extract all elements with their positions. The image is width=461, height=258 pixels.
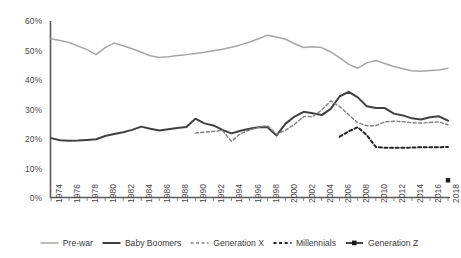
y-tick-label: 40% — [2, 75, 42, 85]
legend-item-generation-x[interactable]: Generation X — [190, 238, 264, 248]
series-line-baby-boomers — [51, 92, 448, 141]
x-tick-label: 1990 — [199, 184, 208, 203]
x-tick-label: 2002 — [308, 184, 317, 203]
series-line-pre-war — [51, 35, 448, 71]
x-tick-label: 2012 — [398, 184, 407, 203]
x-tick-label: 1976 — [73, 184, 82, 203]
legend-item-generation-z[interactable]: Generation Z — [345, 238, 418, 248]
legend-label-generation-x: Generation X — [213, 238, 264, 248]
x-tick-label: 2010 — [380, 184, 389, 203]
x-tick-label: 2000 — [290, 184, 299, 203]
x-tick-label: 1984 — [145, 184, 154, 203]
legend-item-millennials[interactable]: Millennials — [273, 238, 336, 248]
x-tick-label: 1974 — [55, 184, 64, 203]
x-tick-label: 1992 — [217, 184, 226, 203]
y-tick-label: 60% — [2, 16, 42, 26]
legend-swatch-generation-x — [190, 238, 209, 248]
y-tick-label: 0% — [2, 193, 42, 203]
series-line-millennials — [340, 127, 448, 148]
y-tick-label: 30% — [2, 105, 42, 115]
x-tick-label: 1988 — [181, 184, 190, 203]
y-tick-label: 20% — [2, 134, 42, 144]
legend-item-pre-war[interactable]: Pre-war — [40, 238, 93, 248]
chart-legend: Pre-warBaby BoomersGeneration XMillennia… — [0, 232, 458, 254]
data-point-marker — [446, 178, 450, 182]
x-tick-label: 1996 — [254, 184, 263, 203]
x-tick-label: 2018 — [452, 184, 461, 203]
legend-label-generation-z: Generation Z — [368, 238, 418, 248]
x-tick-label: 1986 — [163, 184, 172, 203]
legend-swatch-baby-boomers — [102, 238, 121, 248]
x-tick-label: 2006 — [344, 184, 353, 203]
data-series-group — [51, 35, 450, 182]
x-tick-label: 1978 — [91, 184, 100, 203]
legend-swatch-generation-z — [345, 238, 364, 248]
y-tick-label: 50% — [2, 46, 42, 56]
axes — [50, 21, 450, 198]
legend-label-millennials: Millennials — [296, 238, 336, 248]
x-tick-label: 2014 — [416, 184, 425, 203]
legend-label-baby-boomers: Baby Boomers — [125, 238, 181, 248]
x-tick-label: 1980 — [109, 184, 118, 203]
x-tick-label: 2004 — [326, 184, 335, 203]
legend-swatch-pre-war — [40, 238, 59, 248]
x-tick-label: 1998 — [272, 184, 281, 203]
x-tick-label: 1982 — [127, 184, 136, 203]
x-tick-label: 2016 — [434, 184, 443, 203]
x-tick-label: 2008 — [362, 184, 371, 203]
legend-swatch-millennials — [273, 238, 292, 248]
series-line-generation-x — [195, 101, 448, 141]
legend-item-baby-boomers[interactable]: Baby Boomers — [102, 238, 181, 248]
y-tick-label: 10% — [2, 164, 42, 174]
legend-label-pre-war: Pre-war — [63, 238, 93, 248]
x-tick-label: 1994 — [235, 184, 244, 203]
